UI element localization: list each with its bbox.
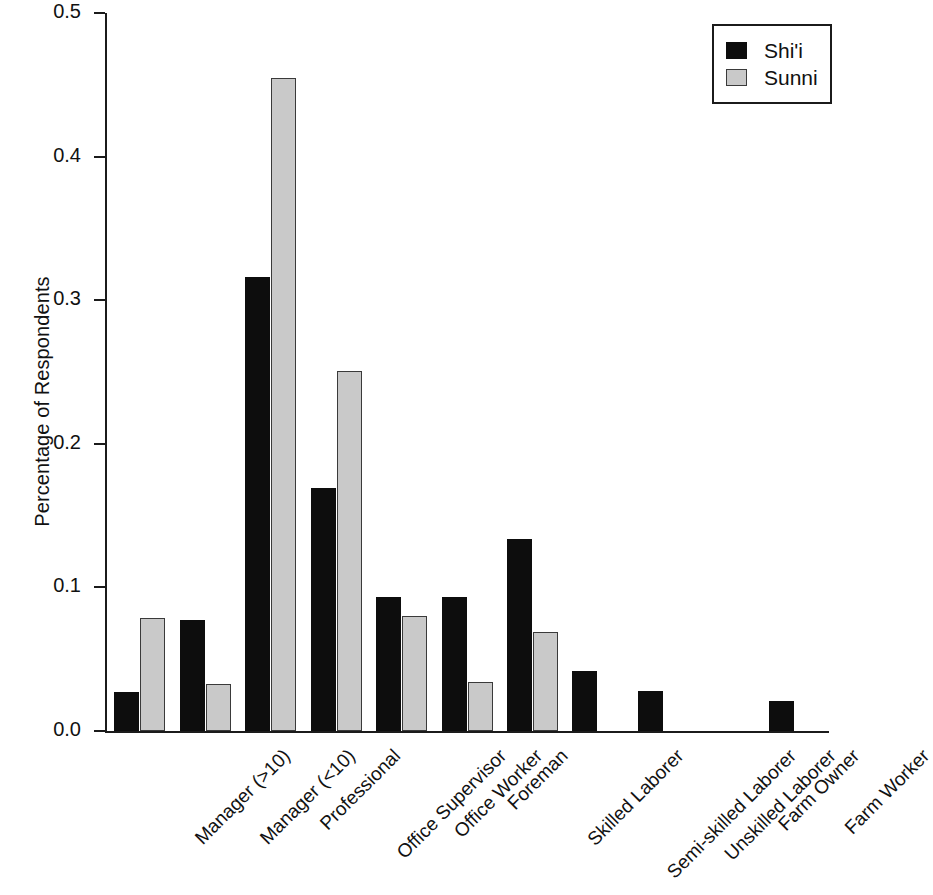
bar-sunni — [402, 616, 427, 731]
bar-shii — [769, 701, 794, 731]
y-axis-tick-label: 0.5 — [11, 0, 81, 23]
legend-swatch-sunni — [726, 69, 747, 86]
y-axis-tick — [94, 12, 105, 14]
bar-shii — [572, 671, 597, 731]
y-axis-tick-label: 0.1 — [11, 574, 81, 597]
bar-sunni — [337, 371, 362, 731]
y-axis-tick-label: 0.3 — [11, 287, 81, 310]
legend-label: Sunni — [764, 66, 818, 90]
bar-shii — [376, 597, 401, 731]
legend-item: Sunni — [726, 64, 818, 91]
bar-shii — [245, 277, 270, 731]
legend-label: Shi'i — [764, 39, 803, 63]
x-axis-line — [105, 731, 829, 733]
legend: Shi'iSunni — [712, 24, 832, 104]
bar-shii — [311, 488, 336, 731]
plot-area — [107, 13, 827, 731]
y-axis-tick-label: 0.0 — [11, 718, 81, 741]
y-axis-tick — [94, 299, 105, 301]
bar-shii — [442, 597, 467, 731]
legend-item: Shi'i — [726, 37, 818, 64]
x-axis-label: Skilled Laborer — [584, 745, 689, 850]
y-axis-tick — [94, 443, 105, 445]
bar-sunni — [468, 682, 493, 731]
y-axis-title: Percentage of Respondents — [31, 202, 54, 602]
y-axis-tick-label: 0.4 — [11, 144, 81, 167]
bar-shii — [114, 692, 139, 731]
y-axis-tick — [94, 156, 105, 158]
bar-shii — [638, 691, 663, 731]
bar-sunni — [206, 684, 231, 731]
bar-shii — [180, 620, 205, 731]
y-axis-tick-label: 0.2 — [11, 431, 81, 454]
bar-sunni — [140, 618, 165, 731]
y-axis-tick — [94, 730, 105, 732]
bar-shii — [507, 539, 532, 731]
bar-sunni — [533, 632, 558, 731]
legend-swatch-shii — [726, 42, 747, 59]
y-axis-tick — [94, 586, 105, 588]
bar-sunni — [271, 78, 296, 731]
